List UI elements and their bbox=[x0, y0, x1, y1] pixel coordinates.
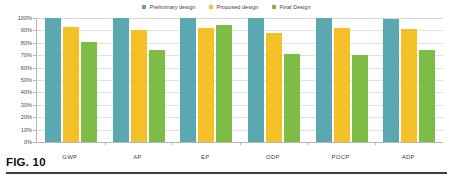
legend-item-preliminary-design: Preliminary design bbox=[142, 4, 195, 10]
caption-divider bbox=[6, 172, 447, 174]
bar-groups bbox=[37, 18, 443, 142]
bar-preliminary-design[interactable] bbox=[113, 18, 129, 142]
legend-swatch-proposed-design bbox=[209, 5, 213, 9]
bar-preliminary-design[interactable] bbox=[316, 18, 332, 142]
bar-group-gwp bbox=[37, 18, 105, 142]
x-label-cell: EP bbox=[171, 145, 239, 157]
x-axis-labels: GWP AP EP ODP POCP ADP bbox=[36, 145, 442, 157]
y-tick-label: 80% bbox=[21, 40, 32, 46]
legend-item-final-design: Final Design bbox=[272, 4, 310, 10]
y-tick-label: 10% bbox=[21, 127, 32, 133]
bar-proposed-design[interactable] bbox=[401, 29, 417, 142]
bar-preliminary-design[interactable] bbox=[180, 18, 196, 142]
bar-final-design[interactable] bbox=[419, 50, 435, 142]
legend-label-proposed-design: Proposed design bbox=[216, 4, 258, 10]
bar-group-pocp bbox=[308, 18, 376, 142]
bar-final-design[interactable] bbox=[149, 50, 165, 142]
legend-label-preliminary-design: Preliminary design bbox=[149, 4, 195, 10]
y-tick-label: 0% bbox=[24, 139, 32, 145]
y-axis-labels: 100% 90% 80% 70% 60% 50% 40% 30% 20% 10%… bbox=[0, 14, 34, 146]
legend-swatch-preliminary-design bbox=[142, 5, 146, 9]
y-tick-label: 20% bbox=[21, 114, 32, 120]
x-label-cell: POCP bbox=[307, 145, 375, 157]
figure-container: Preliminary design Proposed design Final… bbox=[0, 0, 453, 179]
x-label-cell: GWP bbox=[36, 145, 104, 157]
x-tick-label: EP bbox=[201, 154, 209, 160]
y-tick-label: 60% bbox=[21, 65, 32, 71]
bar-final-design[interactable] bbox=[216, 25, 232, 142]
bar-preliminary-design[interactable] bbox=[45, 18, 61, 142]
bar-final-design[interactable] bbox=[284, 54, 300, 142]
bar-proposed-design[interactable] bbox=[334, 28, 350, 142]
bar-final-design[interactable] bbox=[81, 42, 97, 142]
legend-item-proposed-design: Proposed design bbox=[209, 4, 258, 10]
bar-preliminary-design[interactable] bbox=[248, 18, 264, 142]
x-tick-label: AP bbox=[133, 154, 141, 160]
bar-preliminary-design[interactable] bbox=[383, 19, 399, 142]
legend-swatch-final-design bbox=[272, 5, 276, 9]
bar-final-design[interactable] bbox=[352, 55, 368, 142]
x-label-cell: ADP bbox=[374, 145, 442, 157]
chart-legend: Preliminary design Proposed design Final… bbox=[0, 1, 453, 12]
x-tick-label: POCP bbox=[332, 154, 350, 160]
x-label-cell: ODP bbox=[239, 145, 307, 157]
x-tick-label: ADP bbox=[402, 154, 415, 160]
bar-group-ep bbox=[172, 18, 240, 142]
plot-area bbox=[36, 18, 443, 143]
bar-group-odp bbox=[240, 18, 308, 142]
figure-caption: FIG. 10 bbox=[6, 156, 46, 169]
y-tick-label: 40% bbox=[21, 89, 32, 95]
y-tick-label: 50% bbox=[21, 77, 32, 83]
x-tick-label: ODP bbox=[266, 154, 280, 160]
x-tick-label: GWP bbox=[62, 154, 77, 160]
bar-proposed-design[interactable] bbox=[198, 28, 214, 142]
y-tick-label: 30% bbox=[21, 102, 32, 108]
bar-group-adp bbox=[375, 18, 443, 142]
y-tick-label: 100% bbox=[18, 15, 32, 21]
bar-group-ap bbox=[105, 18, 173, 142]
legend-label-final-design: Final Design bbox=[279, 4, 310, 10]
bar-proposed-design[interactable] bbox=[131, 30, 147, 142]
x-label-cell: AP bbox=[104, 145, 172, 157]
bar-proposed-design[interactable] bbox=[266, 33, 282, 142]
y-tick-label: 70% bbox=[21, 52, 32, 58]
bar-proposed-design[interactable] bbox=[63, 27, 79, 142]
y-tick-label: 90% bbox=[21, 27, 32, 33]
